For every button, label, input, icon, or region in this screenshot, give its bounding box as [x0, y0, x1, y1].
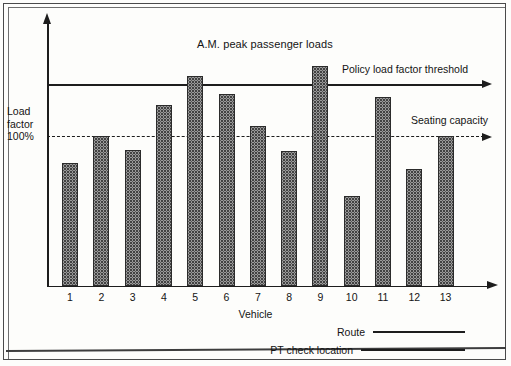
bar-vehicle-4 [156, 105, 172, 287]
legend-label-pt-check-location: PT check location [270, 344, 353, 356]
chart-page: 12345678910111213 A.M. peak passenger lo… [0, 0, 511, 366]
x-tick-label-3: 3 [122, 291, 144, 303]
x-tick-label-9: 9 [309, 291, 331, 303]
bar-vehicle-10 [344, 196, 360, 286]
chart-title: A.M. peak passenger loads [197, 38, 333, 50]
y-axis-label: Load factor 100% [7, 105, 45, 143]
y-axis-label-line2: factor [7, 118, 45, 131]
x-tick-label-12: 12 [403, 291, 425, 303]
x-tick-label-2: 2 [90, 291, 112, 303]
seating-capacity-label: Seating capacity [411, 114, 488, 126]
bar-vehicle-9 [312, 66, 328, 287]
policy-threshold-arrow-icon [482, 80, 492, 88]
y-axis-arrow-icon [43, 13, 51, 24]
y-axis-label-line3: 100% [7, 130, 45, 143]
legend-line-route [373, 331, 465, 333]
y-axis-label-line1: Load [7, 105, 45, 118]
policy-threshold-line [47, 84, 484, 86]
bar-vehicle-8 [281, 151, 297, 286]
policy-threshold-label: Policy load factor threshold [342, 63, 468, 75]
x-tick-label-13: 13 [435, 291, 457, 303]
x-tick-label-10: 10 [341, 291, 363, 303]
x-tick-label-6: 6 [216, 291, 238, 303]
bar-vehicle-2 [93, 136, 109, 286]
x-axis-line [47, 286, 489, 288]
legend-item-pt-check-location: PT check location [175, 344, 465, 356]
x-tick-label-5: 5 [184, 291, 206, 303]
y-axis-line [47, 22, 49, 287]
legend-item-route: Route [175, 326, 465, 338]
bar-vehicle-11 [375, 97, 391, 286]
legend-label-route: Route [337, 326, 365, 338]
x-tick-label-8: 8 [278, 291, 300, 303]
x-tick-label-11: 11 [372, 291, 394, 303]
seating-capacity-arrow-icon [482, 133, 492, 141]
x-tick-label-1: 1 [59, 291, 81, 303]
x-tick-label-4: 4 [153, 291, 175, 303]
bar-vehicle-5 [187, 76, 203, 286]
bar-vehicle-1 [62, 163, 78, 286]
x-tick-label-7: 7 [247, 291, 269, 303]
bar-vehicle-12 [406, 169, 422, 286]
x-axis-title: Vehicle [0, 308, 511, 320]
bar-vehicle-7 [250, 126, 266, 287]
bar-chart-plot-area: 12345678910111213 A.M. peak passenger lo… [0, 0, 511, 366]
bar-vehicle-3 [125, 150, 141, 287]
bar-vehicle-6 [219, 94, 235, 286]
legend-line-pt-check-location [361, 349, 465, 351]
x-axis-arrow-icon [487, 281, 498, 289]
bar-vehicle-13 [438, 136, 454, 286]
